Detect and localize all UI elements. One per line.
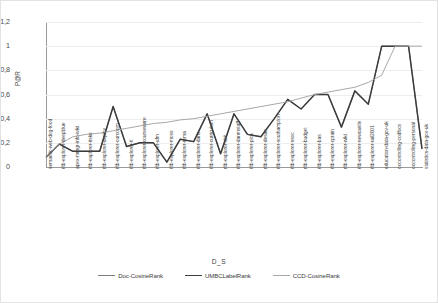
x-tick-label: rltb-explorer-dans — [196, 132, 202, 169]
x-tick-label: rltb-explorer-curriculum — [209, 120, 215, 169]
x-tick-label: rltb-explorer-cprain — [330, 129, 336, 169]
x-tick-label: oocontrolling-personal — [411, 122, 417, 169]
x-tick-label: rltb-explorer-newcastle — [357, 121, 363, 169]
x-axis-title: D_S — [0, 258, 438, 265]
x-tick-label: rltb-explorer-ourcoom — [115, 123, 121, 169]
legend-item[interactable]: CCD-CosineRank — [273, 272, 340, 279]
x-tick-label: education-data-gov-uk — [384, 121, 390, 169]
y-tick-label: 0,8 — [0, 66, 10, 73]
legend-label: Doc-CosineRank — [118, 272, 163, 279]
x-tick-label: rltb-explorer-deploy — [102, 128, 108, 169]
x-tick-label: rltb-explorer-wiki — [343, 134, 349, 169]
legend-item[interactable]: UMBCLabelRank — [185, 272, 251, 279]
x-tick-label: oocontrolling-codfocs — [397, 124, 403, 169]
x-tick-label: rltb-explorer-deepblue — [61, 122, 67, 169]
x-tick-label: semantic-web-dog-food — [48, 119, 54, 169]
legend-item[interactable]: Doc-CosineRank — [98, 272, 163, 279]
x-tick-label: rltb-explorer-ufm — [155, 134, 161, 169]
chart-container: P@R 00,20,40,60,811,2 semantic-web-dog-f… — [0, 0, 438, 303]
x-tick-label: rltb-explorer-rail2001 — [370, 125, 376, 169]
x-tick-label: rltb-explorer-bas — [317, 134, 323, 169]
y-tick-label: 0 — [0, 163, 10, 170]
y-tick-label: 1,2 — [0, 18, 10, 25]
y-tick-label: 0,4 — [0, 115, 10, 122]
x-tick-label: rltb-explorer-danmstaff — [236, 121, 242, 169]
x-tick-label: rltb-explorer-budget — [303, 128, 309, 169]
x-tick-label: rltb-explorer-moss — [169, 131, 175, 169]
x-tick-label: rltb-explorer-southampton — [276, 114, 282, 169]
x-tick-label: rltb-explorer-sirit — [223, 135, 229, 169]
legend-label: UMBCLabelRank — [205, 272, 251, 279]
x-tick-label: rltb-explorer-rt — [129, 139, 135, 169]
legend-label: CCD-CosineRank — [293, 272, 340, 279]
y-tick-label: 0,6 — [0, 91, 10, 98]
legend-swatch-icon — [273, 275, 290, 276]
x-tick-label: rltb-explorer-pica — [249, 133, 255, 169]
legend-swatch-icon — [185, 275, 202, 277]
x-tick-label: rltb-explorer-courseware — [142, 117, 148, 169]
x-tick-label: rltb-explorer-desac — [263, 129, 269, 169]
y-tick-label: 0,2 — [0, 139, 10, 146]
chart-legend: Doc-CosineRankUMBCLabelRankCCD-CosineRan… — [0, 272, 438, 279]
y-axis-title: P@R — [14, 71, 21, 86]
x-axis-ticks: semantic-web-dog-foodrltb-explorer-deepb… — [46, 169, 422, 253]
y-tick-label: 1 — [0, 42, 10, 49]
x-tick-label: rltb-explorer-roma — [182, 131, 188, 169]
x-tick-label: statistics-data-gov-uk — [424, 124, 430, 169]
x-tick-label: rltb-explorer-risks — [88, 133, 94, 170]
x-tick-label: apex-mmgr-info-wiki — [75, 126, 81, 169]
x-tick-label: rltb-explorer-ssoc — [290, 132, 296, 169]
legend-swatch-icon — [98, 275, 115, 276]
